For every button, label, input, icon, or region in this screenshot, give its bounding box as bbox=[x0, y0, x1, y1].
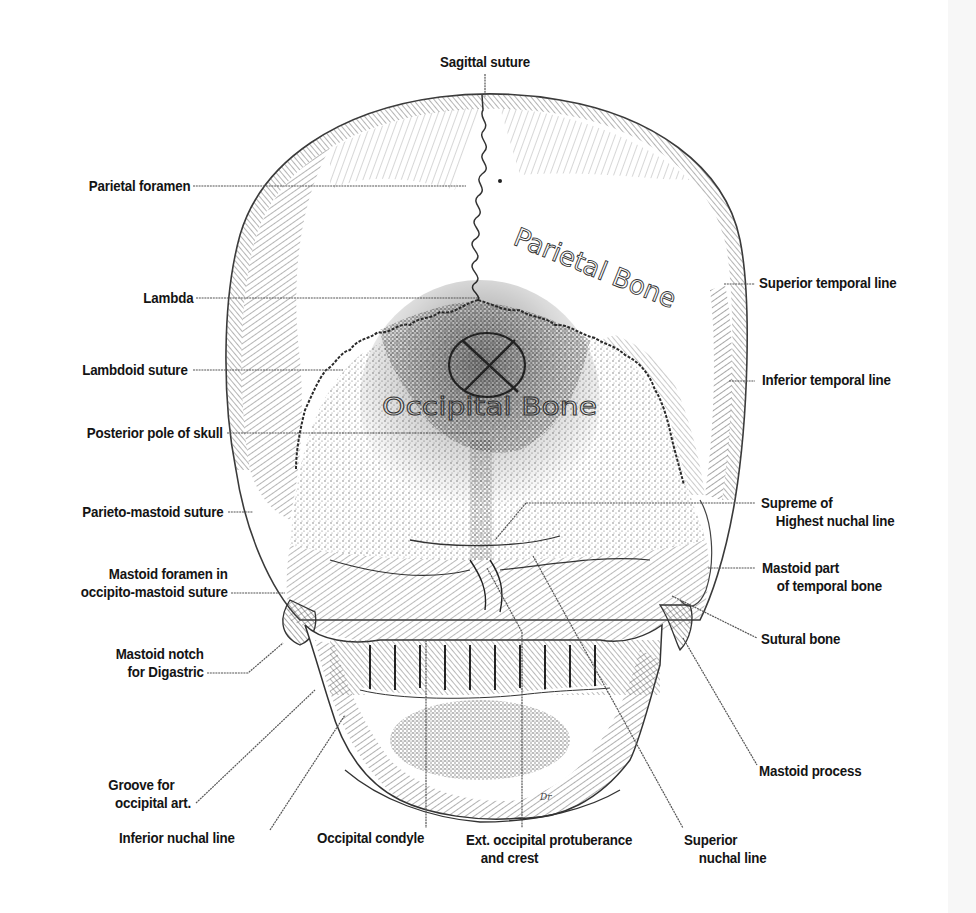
label-text: Mastoid process bbox=[759, 763, 862, 779]
label-sagittal-suture: Sagittal suture bbox=[425, 53, 545, 71]
label-mastoid-foramen: Mastoid foramen in occipito-mastoid sutu… bbox=[81, 565, 228, 601]
label-text-line-1: Mastoid notch bbox=[116, 645, 204, 663]
label-sutural-bone: Sutural bone bbox=[761, 630, 840, 648]
label-supreme-nuchal-line: Supreme of Highest nuchal line bbox=[761, 494, 895, 530]
label-occipital-condyle: Occipital condyle bbox=[317, 829, 424, 847]
label-text: Posterior pole of skull bbox=[87, 425, 223, 441]
label-text: Inferior temporal line bbox=[762, 372, 891, 388]
label-text-line-2: of temporal bone bbox=[762, 577, 882, 595]
label-text-line-1: Superior bbox=[684, 831, 766, 849]
label-text-line-1: Supreme of bbox=[761, 494, 895, 512]
label-groove-occipital-art: Groove for occipital art. bbox=[108, 776, 191, 812]
label-lambda: Lambda bbox=[143, 289, 193, 307]
label-text-line-2: and crest bbox=[466, 849, 632, 867]
label-text-line-2: Highest nuchal line bbox=[761, 512, 895, 530]
label-posterior-pole: Posterior pole of skull bbox=[87, 424, 223, 442]
label-text-line-2: for Digastric bbox=[116, 663, 204, 681]
label-text-line-1: Mastoid part bbox=[762, 559, 882, 577]
label-text: Superior temporal line bbox=[759, 275, 897, 291]
label-text: Sutural bone bbox=[761, 631, 840, 647]
label-text-line-2: occipital art. bbox=[108, 794, 191, 812]
label-parieto-mastoid-suture: Parieto-mastoid suture bbox=[83, 503, 224, 521]
label-text-line-2: occipito-mastoid suture bbox=[81, 583, 228, 601]
label-text: Parietal foramen bbox=[88, 178, 190, 194]
label-text: Parieto-mastoid suture bbox=[83, 504, 224, 520]
label-superior-temporal-line: Superior temporal line bbox=[759, 274, 897, 292]
label-text-line-2: nuchal line bbox=[684, 849, 766, 867]
label-mastoid-notch: Mastoid notch for Digastric bbox=[116, 645, 204, 681]
handwritten-occipital-bone: Occipital Bone bbox=[382, 393, 597, 421]
label-text-line-1: Mastoid foramen in bbox=[81, 565, 228, 583]
label-text-line-1: Groove for bbox=[108, 776, 191, 794]
label-inferior-temporal-line: Inferior temporal line bbox=[762, 371, 891, 389]
parietal-foramen-dot bbox=[498, 179, 502, 183]
label-text: Lambdoid suture bbox=[83, 362, 188, 378]
label-mastoid-part-temporal: Mastoid part of temporal bone bbox=[762, 559, 882, 595]
label-text: Inferior nuchal line bbox=[119, 830, 235, 846]
label-parietal-foramen: Parietal foramen bbox=[88, 177, 190, 195]
artist-signature: Dr bbox=[539, 792, 552, 802]
label-mastoid-process: Mastoid process bbox=[759, 762, 862, 780]
label-lambdoid-suture: Lambdoid suture bbox=[83, 361, 188, 379]
label-text: Lambda bbox=[143, 290, 193, 306]
label-inferior-nuchal-line: Inferior nuchal line bbox=[119, 829, 235, 847]
label-text: Occipital condyle bbox=[317, 830, 424, 846]
label-ext-occipital-protuberance: Ext. occipital protuberance and crest bbox=[466, 831, 632, 867]
label-text-line-1: Ext. occipital protuberance bbox=[466, 831, 632, 849]
label-text: Sagittal suture bbox=[440, 54, 530, 70]
label-superior-nuchal-line: Superior nuchal line bbox=[684, 831, 766, 867]
